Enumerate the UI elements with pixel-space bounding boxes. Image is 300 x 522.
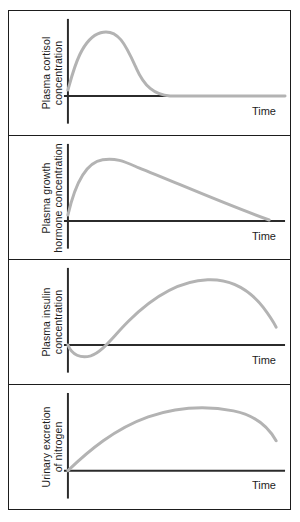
y-axis-label-line1: Urinary excretion: [40, 406, 52, 487]
panel-plasma-cortisol: Plasma cortisol concentration Time: [9, 11, 290, 136]
curve-urinary-nitrogen: [68, 407, 276, 470]
x-axis-label-urinary-nitrogen: Time: [252, 479, 276, 491]
panel-plasma-growth-hormone: Plasma growth hormone concentration Time: [9, 136, 290, 261]
panel-urinary-nitrogen: Urinary excretion of nitrogen Time: [9, 385, 290, 510]
x-axis-label-plasma-insulin: Time: [252, 354, 276, 366]
figure-frame: Plasma cortisol concentration Time Plasm…: [8, 10, 291, 510]
x-axis-label-plasma-growth-hormone: Time: [252, 230, 276, 242]
panel-plasma-insulin: Plasma insulin concentration Time: [9, 260, 290, 385]
x-axis-label-plasma-cortisol: Time: [252, 105, 276, 117]
y-axis-label-line1: Plasma growth: [40, 162, 52, 233]
y-axis-label-line1: Plasma insulin: [40, 287, 52, 356]
curve-plasma-growth-hormone: [68, 159, 269, 220]
y-axis-label-line1: Plasma cortisol: [40, 37, 52, 110]
curve-plasma-cortisol: [68, 32, 285, 96]
